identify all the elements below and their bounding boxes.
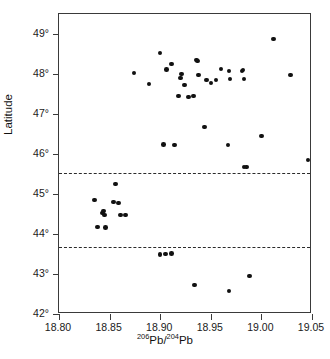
- x-tick-label-18.90: 18.90: [136, 322, 182, 333]
- data-points-layer: [59, 14, 310, 312]
- data-point: [196, 73, 201, 78]
- data-point: [259, 134, 264, 139]
- x-tick-19.00: [261, 314, 262, 320]
- data-point: [169, 251, 174, 256]
- data-point: [147, 82, 152, 87]
- y-tick-43: [53, 274, 59, 275]
- data-point: [214, 78, 219, 83]
- data-point: [192, 283, 197, 288]
- data-point: [209, 81, 214, 86]
- data-point: [176, 94, 181, 99]
- data-point: [227, 69, 232, 74]
- data-point: [163, 252, 168, 257]
- data-point: [92, 198, 97, 203]
- data-point: [179, 72, 184, 77]
- y-tick-44: [53, 234, 59, 235]
- scatter-plot-figure: Latitude 42°43°44°45°46°47°48°49° 18.801…: [0, 0, 330, 359]
- data-point: [227, 289, 232, 294]
- x-axis-title-sup-206: 206: [137, 334, 149, 346]
- data-point: [132, 71, 137, 76]
- y-tick-48: [53, 74, 59, 75]
- data-point: [169, 62, 174, 67]
- data-point: [158, 51, 163, 56]
- data-point: [164, 67, 169, 72]
- x-tick-18.95: [211, 314, 212, 320]
- y-axis-title: Latitude: [2, 94, 14, 135]
- data-point: [247, 274, 252, 279]
- data-point: [226, 143, 231, 148]
- y-tick-label-48: 48°: [15, 68, 49, 79]
- data-point: [103, 225, 108, 230]
- x-tick-19.05: [312, 314, 313, 320]
- x-axis-title-base-pb: Pb/: [149, 334, 166, 346]
- x-tick-18.80: [59, 314, 60, 320]
- plot-area: [58, 13, 311, 313]
- x-tick-label-18.95: 18.95: [187, 322, 233, 333]
- data-point: [161, 142, 166, 147]
- y-tick-label-43: 43°: [15, 268, 49, 279]
- data-point: [228, 77, 233, 82]
- data-point: [95, 225, 100, 230]
- y-tick-label-47: 47°: [15, 108, 49, 119]
- x-axis-title-base-pb2: Pb: [179, 334, 193, 346]
- x-axis-title: 206Pb/204Pb: [0, 334, 330, 346]
- data-point: [118, 213, 123, 218]
- y-tick-label-49: 49°: [15, 28, 49, 39]
- x-tick-label-19.05: 19.05: [288, 322, 330, 333]
- x-tick-18.85: [110, 314, 111, 320]
- data-point: [288, 73, 293, 78]
- data-point: [178, 76, 183, 81]
- y-tick-49: [53, 34, 59, 35]
- y-tick-45: [53, 194, 59, 195]
- data-point: [195, 59, 200, 64]
- data-point: [242, 77, 247, 82]
- data-point: [202, 125, 207, 130]
- x-tick-label-18.80: 18.80: [35, 322, 81, 333]
- data-point: [186, 95, 191, 100]
- data-point: [271, 37, 276, 42]
- data-point: [191, 94, 196, 99]
- y-tick-label-45: 45°: [15, 188, 49, 199]
- y-tick-label-42: 42°: [15, 308, 49, 319]
- data-point: [123, 213, 128, 218]
- y-tick-46: [53, 154, 59, 155]
- data-point: [241, 68, 246, 73]
- x-tick-label-18.85: 18.85: [86, 322, 132, 333]
- y-tick-label-46: 46°: [15, 148, 49, 159]
- y-tick-47: [53, 114, 59, 115]
- data-point: [182, 83, 187, 88]
- x-tick-18.90: [160, 314, 161, 320]
- data-point: [113, 182, 118, 187]
- data-point: [102, 213, 107, 218]
- x-tick-label-19.00: 19.00: [237, 322, 283, 333]
- data-point: [306, 158, 310, 163]
- data-point: [158, 252, 163, 257]
- y-tick-label-44: 44°: [15, 228, 49, 239]
- data-point: [219, 67, 224, 72]
- data-point: [172, 143, 177, 148]
- data-point: [116, 201, 121, 206]
- data-point: [111, 200, 116, 205]
- x-axis-title-sup-204: 204: [167, 334, 179, 346]
